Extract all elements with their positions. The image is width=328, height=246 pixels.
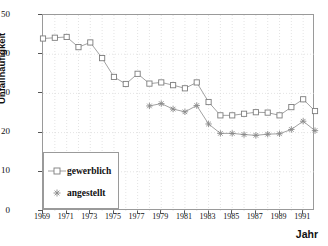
y-axis-tick-label: 20 [0,127,10,136]
y-axis-tick-label: 10 [0,166,10,175]
y-axis-tick-label: 30 [0,88,10,97]
y-axis-tick-label: 40 [0,49,10,58]
x-axis-title: Jahr [296,228,318,240]
asterisk-marker-icon [48,186,66,200]
y-axis-tick-label: 50 [0,10,10,19]
legend-label-gewerblich: gewerblich [66,166,111,176]
chart-legend: gewerblich angestellt [43,152,119,209]
legend-label-angestellt: angestellt [66,188,106,198]
chart-figure: Unfallhäufigkeit Jahr 01020304050 196919… [0,0,328,246]
y-axis-tick-label: 0 [0,206,10,215]
open-square-marker-icon [48,164,66,178]
legend-item-gewerblich: gewerblich [44,160,118,182]
legend-item-angestellt: angestellt [44,182,118,204]
